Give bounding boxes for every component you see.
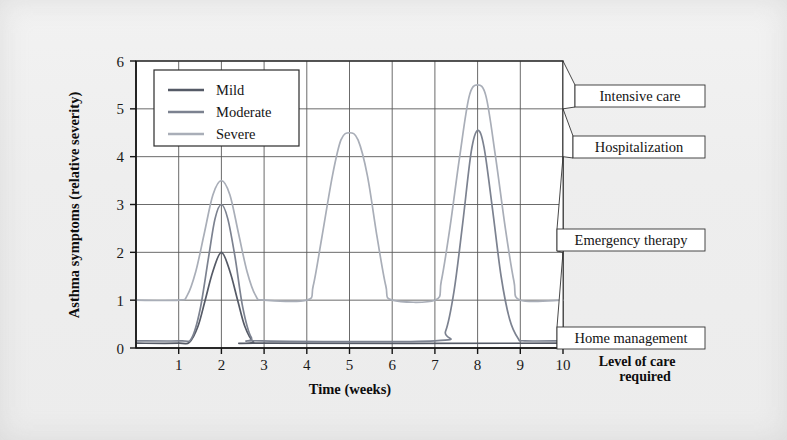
x-tick-label-6: 6 bbox=[388, 357, 396, 373]
x-tick-label-1: 1 bbox=[175, 357, 183, 373]
callout-wedge-intensive-care bbox=[563, 61, 575, 109]
x-tick-label-8: 8 bbox=[474, 357, 482, 373]
callout-label-emergency-therapy: Emergency therapy bbox=[575, 232, 689, 248]
x-tick-label-3: 3 bbox=[260, 357, 268, 373]
callout-wedge-hospitalization bbox=[563, 109, 573, 158]
y-tick-label-3: 3 bbox=[117, 197, 125, 213]
x-tick-label-4: 4 bbox=[303, 357, 311, 373]
y-tick-label-0: 0 bbox=[117, 341, 125, 357]
x-tick-label-10: 10 bbox=[556, 357, 571, 373]
y-tick-label-1: 1 bbox=[117, 293, 125, 309]
chart-legend: MildModerateSevere bbox=[154, 70, 299, 146]
callout-label-home-management: Home management bbox=[574, 330, 687, 346]
legend-label-severe: Severe bbox=[216, 126, 255, 142]
x-axis-title: Time (weeks) bbox=[309, 381, 391, 398]
care-level-callouts: Intensive careHospitalizationEmergency t… bbox=[557, 61, 705, 349]
legend-label-mild: Mild bbox=[216, 82, 245, 98]
y-tick-label-6: 6 bbox=[117, 54, 125, 70]
right-axis-title-line1: Level of care bbox=[599, 354, 676, 369]
asthma-severity-chart: 0123456 12345678910 Asthma symptoms (rel… bbox=[0, 0, 787, 440]
figure-container: 0123456 12345678910 Asthma symptoms (rel… bbox=[0, 0, 787, 440]
x-tick-label-5: 5 bbox=[346, 357, 354, 373]
x-tick-label-9: 9 bbox=[517, 357, 525, 373]
y-axis-ticks: 0123456 bbox=[117, 54, 137, 357]
callout-label-hospitalization: Hospitalization bbox=[595, 139, 684, 155]
legend-label-moderate: Moderate bbox=[216, 104, 272, 120]
right-axis-title-line2: required bbox=[619, 369, 671, 384]
x-tick-label-2: 2 bbox=[218, 357, 226, 373]
y-tick-label-5: 5 bbox=[117, 101, 125, 117]
y-tick-label-2: 2 bbox=[117, 245, 125, 261]
callout-label-intensive-care: Intensive care bbox=[600, 88, 681, 104]
y-axis-title: Asthma symptoms (relative severity) bbox=[66, 92, 83, 319]
x-tick-label-7: 7 bbox=[431, 357, 439, 373]
y-tick-label-4: 4 bbox=[117, 149, 125, 165]
x-axis-ticks: 12345678910 bbox=[175, 348, 571, 373]
